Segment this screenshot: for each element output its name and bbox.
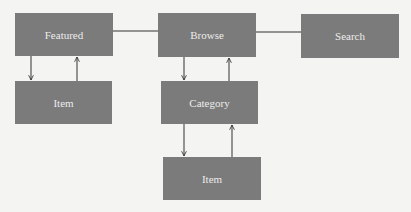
node-item-featured: Item <box>15 81 112 124</box>
node-label: Featured <box>45 29 83 41</box>
node-label: Category <box>189 97 229 109</box>
node-item-category: Item <box>163 157 261 200</box>
node-label: Item <box>202 173 222 185</box>
diagram-canvas: Featured Browse Search Item Category Ite… <box>0 0 411 212</box>
node-search: Search <box>301 14 399 58</box>
node-label: Search <box>335 30 365 42</box>
node-label: Browse <box>190 29 224 41</box>
node-browse: Browse <box>158 13 256 57</box>
node-category: Category <box>161 81 258 124</box>
node-featured: Featured <box>15 13 113 56</box>
node-label: Item <box>53 97 73 109</box>
